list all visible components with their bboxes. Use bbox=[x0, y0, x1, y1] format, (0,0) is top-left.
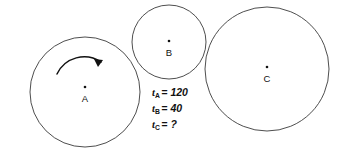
center-dot-c bbox=[266, 66, 269, 69]
equation-subscript-ta: A bbox=[155, 92, 160, 99]
circle-label-a: A bbox=[82, 93, 89, 104]
circles-diagram: A B C tA= 120 tB= 40 tC bbox=[0, 0, 339, 150]
equation-value-tc: = ? bbox=[161, 118, 177, 130]
diagram-canvas: A B C tA= 120 tB= 40 tC bbox=[0, 0, 339, 150]
equation-subscript-tc: C bbox=[155, 124, 160, 131]
equation-value-tb: = 40 bbox=[161, 102, 182, 114]
circle-label-c: C bbox=[264, 73, 271, 84]
center-dot-a bbox=[84, 86, 87, 89]
center-dot-b bbox=[168, 40, 171, 43]
circle-label-b: B bbox=[166, 47, 172, 58]
equation-value-ta: = 120 bbox=[161, 86, 188, 98]
equation-subscript-tb: B bbox=[155, 108, 160, 115]
